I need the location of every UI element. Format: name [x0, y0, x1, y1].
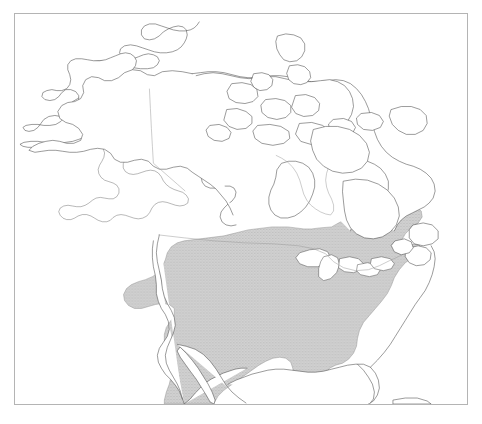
figure-root — [0, 0, 482, 424]
north-america-map — [15, 14, 467, 404]
greenland-edge — [389, 107, 427, 135]
map-frame — [14, 13, 468, 405]
cuba — [393, 398, 431, 404]
newfoundland — [409, 223, 438, 246]
hudson-bay — [269, 161, 315, 218]
